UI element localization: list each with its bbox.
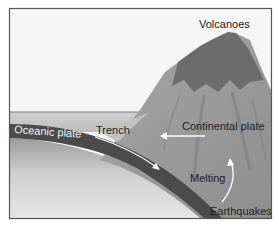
label-trench: Trench	[96, 124, 130, 136]
label-volcanoes: Volcanoes	[199, 18, 250, 30]
label-earthquakes: Earthquakes	[210, 205, 272, 217]
label-melting: Melting	[190, 172, 225, 184]
subduction-diagram: Volcanoes Trench Oceanic plate Continent…	[0, 0, 279, 230]
label-continental-plate: Continental plate	[182, 120, 265, 132]
